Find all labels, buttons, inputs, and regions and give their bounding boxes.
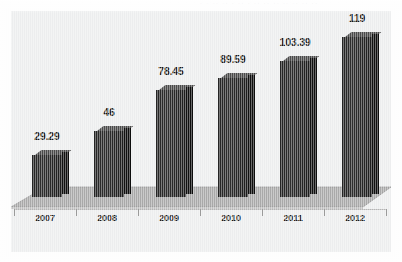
bar-front-face (156, 90, 186, 197)
category-label-2012: 2012 (325, 213, 385, 223)
bar-side-face (372, 34, 379, 194)
bar-side-face (62, 152, 69, 194)
bar-2007 (32, 150, 62, 197)
axis-tick (386, 209, 387, 216)
bar-chart-figure: · · ·· ·· · ·· · ·· ·· ·· ·· ·· ·· ·· 29… (0, 0, 402, 262)
bar-side-face (124, 128, 131, 194)
category-label-2009: 2009 (139, 213, 199, 223)
bar-front-face (32, 155, 62, 197)
category-label-2008: 2008 (77, 213, 137, 223)
category-label-2011: 2011 (263, 213, 323, 223)
bar-2008 (94, 126, 124, 197)
bar-2010 (218, 73, 248, 197)
data-label-2012: 119 (327, 12, 387, 24)
bar-front-face (280, 61, 310, 197)
bar-2009 (156, 85, 186, 197)
data-label-2011: 103.39 (263, 36, 327, 48)
bar-side-face (310, 58, 317, 194)
bar-side-face (248, 75, 255, 194)
bar-side-face (186, 87, 193, 194)
bar-front-face (342, 37, 372, 197)
bar-front-face (94, 131, 124, 197)
bar-2012 (342, 32, 372, 197)
data-label-2009: 78.45 (141, 65, 201, 77)
bar-front-face (218, 78, 248, 197)
data-label-2010: 89.59 (203, 53, 263, 65)
category-label-2010: 2010 (201, 213, 261, 223)
category-label-2007: 2007 (15, 213, 75, 223)
bar-2011 (280, 56, 310, 197)
data-label-2008: 46 (79, 106, 139, 118)
data-label-2007: 29.29 (17, 130, 77, 142)
cropped-text-remnant: · · ·· ·· · ·· · ·· ·· ·· ·· ·· ·· ·· (200, 0, 402, 5)
